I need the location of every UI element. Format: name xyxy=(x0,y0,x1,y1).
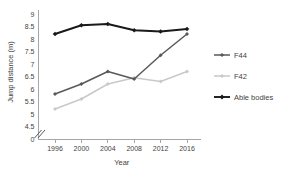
axis-break-slash xyxy=(38,130,45,138)
y-tick-label-zero: 0 xyxy=(31,136,35,143)
series-f44 xyxy=(53,32,189,96)
data-point-marker xyxy=(185,70,189,74)
data-point-marker xyxy=(185,27,190,32)
x-axis-ticks: 199620002004200820122016 xyxy=(47,140,195,152)
legend-label: F42 xyxy=(234,72,247,81)
series-layer xyxy=(53,22,190,111)
x-axis-title: Year xyxy=(114,158,130,167)
series-able-bodies xyxy=(53,22,190,37)
data-point-marker xyxy=(53,107,57,111)
series-line xyxy=(55,34,187,94)
legend-swatch-marker xyxy=(220,74,224,78)
y-axis-break-icon xyxy=(35,130,46,138)
y-tick-label: 8 xyxy=(31,36,35,43)
x-tick-label: 2000 xyxy=(74,145,90,152)
x-tick-label: 2008 xyxy=(126,145,142,152)
y-tick-label: 5 xyxy=(31,111,35,118)
x-tick-label: 2012 xyxy=(153,145,169,152)
line-chart: 4.555.566.577.588.590 199620002004200820… xyxy=(0,0,282,173)
y-tick-label: 6.5 xyxy=(25,73,35,80)
y-axis-ticks: 4.555.566.577.588.590 xyxy=(25,11,35,144)
x-tick-label: 1996 xyxy=(47,145,63,152)
legend-swatch-marker xyxy=(220,53,224,57)
y-tick-label: 6 xyxy=(31,86,35,93)
y-tick-label: 4.5 xyxy=(25,123,35,130)
data-point-marker xyxy=(106,22,111,27)
y-axis-title: Jump distance (m) xyxy=(6,41,15,103)
x-tick-label: 2016 xyxy=(179,145,195,152)
series-line xyxy=(55,72,187,110)
y-tick-label: 9 xyxy=(31,11,35,18)
data-point-marker xyxy=(158,29,163,34)
x-tick-label: 2004 xyxy=(100,145,116,152)
data-point-marker xyxy=(132,28,137,33)
y-tick-label: 7 xyxy=(31,61,35,68)
legend-swatch-marker xyxy=(220,95,225,100)
plot-area: 4.555.566.577.588.590 199620002004200820… xyxy=(25,10,201,152)
data-point-marker xyxy=(53,92,57,96)
series-line xyxy=(55,24,187,34)
chart-canvas: 4.555.566.577.588.590 199620002004200820… xyxy=(0,0,282,173)
y-tick-label: 7.5 xyxy=(25,48,35,55)
data-point-marker xyxy=(53,32,58,37)
y-tick-label: 5.5 xyxy=(25,98,35,105)
legend-label: F44 xyxy=(234,51,247,60)
data-point-marker xyxy=(159,80,163,84)
data-point-marker xyxy=(79,23,84,28)
chart-legend: F44F42Able bodies xyxy=(214,51,273,102)
legend-label: Able bodies xyxy=(234,93,273,102)
y-tick-label: 8.5 xyxy=(25,23,35,30)
